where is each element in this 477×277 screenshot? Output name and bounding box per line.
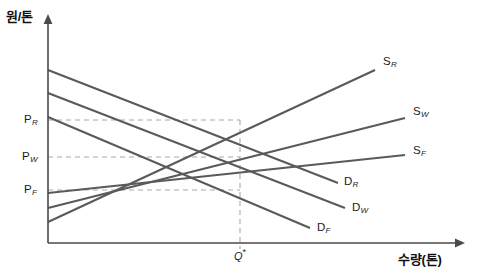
y-axis-title: 원/톤 <box>6 10 33 23</box>
curve-label-supply-retail-text: S <box>383 55 391 67</box>
chart-canvas <box>0 0 477 277</box>
curve-label-demand-wholesale: DW <box>352 202 368 214</box>
price-label-wholesale: PW <box>22 151 37 163</box>
curve-label-supply-wholesale-text: S <box>413 105 421 117</box>
x-axis-arrow-icon <box>455 239 465 248</box>
price-label-farm-text: P <box>24 183 32 195</box>
curve-label-demand-farm-text: D <box>317 221 325 233</box>
quantity-equilibrium-star: * <box>243 247 247 257</box>
curve-label-demand-retail-text: D <box>344 175 352 187</box>
supply-curves <box>48 70 405 222</box>
curve-demand-wholesale <box>48 93 345 208</box>
quantity-equilibrium-label: Q* <box>234 248 246 262</box>
price-label-wholesale-text: P <box>22 150 30 162</box>
curve-supply-retail <box>48 70 375 222</box>
curve-supply-wholesale <box>48 118 405 208</box>
price-label-farm-subscript: F <box>32 188 37 197</box>
price-label-wholesale-subscript: W <box>30 155 38 164</box>
curve-label-supply-farm-subscript: F <box>421 149 426 158</box>
curve-label-demand-farm: DF <box>317 222 330 234</box>
y-axis-arrow-icon <box>44 14 53 24</box>
curve-label-demand-wholesale-text: D <box>352 201 360 213</box>
curve-label-supply-retail: SR <box>383 56 396 68</box>
curve-label-supply-farm-text: S <box>413 144 421 156</box>
price-label-retail-text: P <box>24 113 32 125</box>
price-label-retail: PR <box>24 114 37 126</box>
quantity-equilibrium-text: Q <box>234 250 243 262</box>
price-label-retail-subscript: R <box>32 118 38 127</box>
demand-curves <box>48 70 345 228</box>
curve-demand-farm <box>48 117 310 228</box>
curve-label-supply-farm: SF <box>413 145 426 157</box>
price-label-farm: PF <box>24 184 37 196</box>
curve-label-demand-retail-subscript: R <box>353 180 359 189</box>
axes <box>44 14 465 247</box>
curve-label-demand-wholesale-subscript: W <box>361 206 369 215</box>
curve-label-demand-retail: DR <box>344 176 358 188</box>
curve-label-supply-retail-subscript: R <box>391 60 397 69</box>
curve-label-demand-farm-subscript: F <box>326 226 331 235</box>
supply-demand-chart: 원/톤 수량(톤) PR PW PF SR SW SF DR DW DF Q* <box>0 0 477 277</box>
curve-label-supply-wholesale-subscript: W <box>421 110 429 119</box>
curve-label-supply-wholesale: SW <box>413 106 428 118</box>
x-axis-title: 수량(톤) <box>398 253 442 266</box>
